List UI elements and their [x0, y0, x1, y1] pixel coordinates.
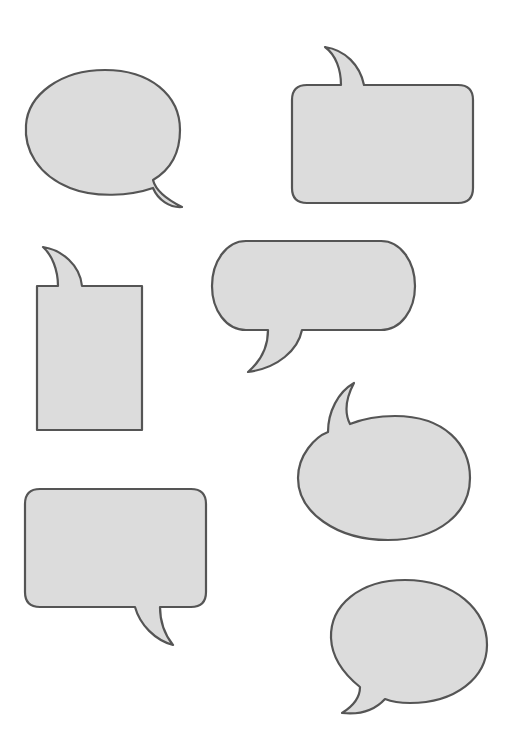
- speech-bubble-icon: [212, 241, 415, 372]
- speech-bubble-icon: [37, 247, 142, 430]
- speech-bubble-icon: [331, 580, 487, 713]
- speech-bubble-oval-1: [26, 70, 182, 207]
- speech-bubble-oval-7: [331, 580, 487, 713]
- speech-bubble-icon: [292, 47, 473, 203]
- speech-bubble-rect-6: [25, 489, 206, 645]
- speech-bubble-icon: [298, 383, 470, 540]
- speech-bubble-icon: [25, 489, 206, 645]
- speech-bubble-rect-2: [292, 47, 473, 203]
- speech-bubbles-canvas: [0, 0, 511, 751]
- speech-bubble-pill-4: [212, 241, 415, 372]
- speech-bubble-ellipse-5: [298, 383, 470, 540]
- speech-bubble-rect-3: [37, 247, 142, 430]
- speech-bubble-icon: [26, 70, 182, 207]
